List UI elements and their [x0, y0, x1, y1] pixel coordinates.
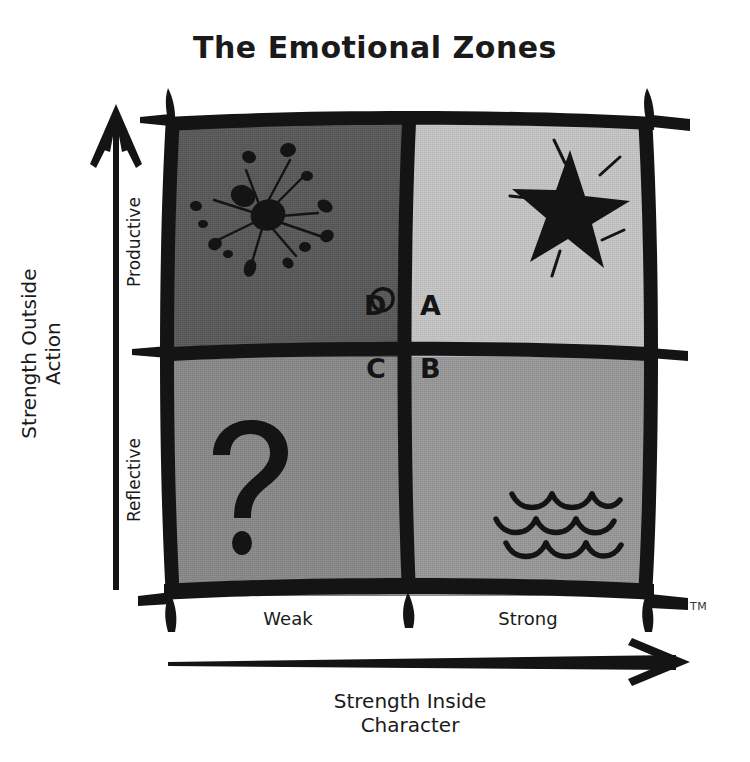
quadrant-d[interactable]: [168, 118, 408, 357]
quadrant-a[interactable]: [408, 118, 648, 357]
y-tick-label-productive: Productive: [124, 182, 144, 302]
quadrant-label-b: B: [420, 355, 441, 382]
emotional-zones-figure: The Emotional Zones: [0, 0, 750, 762]
quadrant-label-a: A: [420, 292, 441, 319]
y-axis-title-line1: Strength Outside: [18, 194, 42, 514]
x-axis-arrow: [168, 638, 690, 686]
quadrant-matrix: [168, 118, 648, 596]
grain-texture: [168, 357, 408, 596]
y-tick-label-reflective: Reflective: [124, 420, 144, 540]
y-axis-title-line2: Action: [42, 194, 66, 514]
x-axis-title-line1: Strength Inside: [165, 690, 655, 714]
x-axis-title-line2: Character: [165, 714, 655, 738]
y-axis-title: Strength Outside Action: [18, 194, 65, 514]
x-tick-label-strong: Strong: [468, 608, 588, 629]
quadrant-label-d: D: [364, 292, 386, 319]
grain-texture: [408, 357, 648, 596]
grain-texture: [408, 118, 648, 357]
quadrant-b[interactable]: [408, 357, 648, 596]
page-title: The Emotional Zones: [0, 30, 750, 65]
quadrant-c[interactable]: [168, 357, 408, 596]
grain-texture: [168, 118, 408, 357]
quadrant-label-c: C: [366, 355, 386, 382]
trademark-mark: TM: [690, 600, 707, 613]
x-axis-title: Strength Inside Character: [165, 690, 655, 737]
x-tick-label-weak: Weak: [228, 608, 348, 629]
